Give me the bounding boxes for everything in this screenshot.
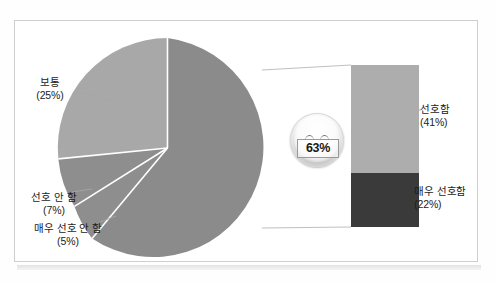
highlight-badge: 63% xyxy=(290,113,344,167)
bar-segment-seonhoham xyxy=(351,65,419,173)
bar-label-seonhoham-name: 선호함 xyxy=(420,103,484,116)
connector-top xyxy=(262,65,351,70)
bar-label-seonhoham: 선호함 (41%) xyxy=(420,103,484,128)
pie-label-seonho-an-ham-name: 선호 안 함 xyxy=(16,191,92,204)
chart-canvas: 63% 보통 (25%) 선호 안 함 (7%) 매우 선호 안 함 (5%) … xyxy=(0,0,496,282)
pie-label-botong-name: 보통 xyxy=(22,76,78,89)
bar-label-maeu-seonhoham-name: 매우 선호함 xyxy=(414,185,490,198)
pie-label-maeu-seonho-an-ham-name: 매우 선호 안 함 xyxy=(16,222,120,235)
pie-label-seonho-an-ham: 선호 안 함 (7%) xyxy=(16,191,92,216)
bar-segment-maeu-seonhoham xyxy=(351,173,419,227)
badge-value: 63% xyxy=(297,139,339,158)
pie-label-maeu-seonho-an-ham: 매우 선호 안 함 (5%) xyxy=(16,222,120,247)
stacked-bar xyxy=(351,65,419,227)
pie-label-seonho-an-ham-percent: (7%) xyxy=(16,204,92,217)
bar-label-seonhoham-percent: (41%) xyxy=(420,116,484,129)
bar-label-maeu-seonhoham-percent: (22%) xyxy=(414,198,490,211)
pie-label-botong: 보통 (25%) xyxy=(22,76,78,101)
connector-bottom xyxy=(262,227,351,228)
pie-label-maeu-seonho-an-ham-percent: (5%) xyxy=(16,235,120,248)
pie-label-botong-percent: (25%) xyxy=(22,89,78,102)
smiley-icon xyxy=(290,127,344,137)
bar-label-maeu-seonhoham: 매우 선호함 (22%) xyxy=(414,185,490,210)
